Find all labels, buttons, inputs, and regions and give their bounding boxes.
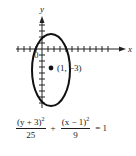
term1-numerator: (y + 3) — [17, 117, 42, 127]
center-point-label: (1, −3) — [57, 63, 82, 73]
equation-term-x: (x − 1)2 9 — [61, 116, 91, 140]
term2-exponent: 2 — [86, 116, 89, 122]
ellipse-graph: x y 0 (1, −3) — [0, 0, 136, 112]
y-axis-label: y — [39, 4, 44, 14]
x-axis-label: x — [127, 44, 132, 54]
plus-sign: + — [51, 123, 56, 133]
term1-denominator: 25 — [26, 129, 35, 140]
center-point — [49, 66, 54, 71]
term2-denominator: 9 — [73, 129, 78, 140]
equals-one: = 1 — [95, 123, 107, 133]
equation-term-y: (y + 3)2 25 — [16, 116, 46, 140]
term2-numerator: (x − 1) — [62, 117, 87, 127]
x-axis-arrow-icon — [119, 47, 126, 52]
ellipse-equation: (y + 3)2 25 + (x − 1)2 9 = 1 — [14, 116, 110, 140]
term1-exponent: 2 — [42, 116, 45, 122]
y-axis-arrow-icon — [40, 16, 45, 23]
